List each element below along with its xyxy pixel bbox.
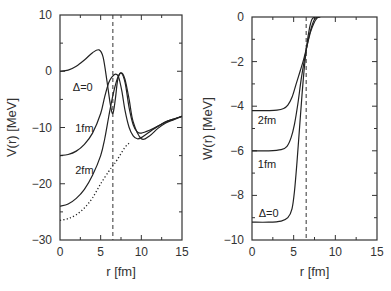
x-tick-label: 5 bbox=[290, 245, 297, 259]
curve-annotation: Δ=0 bbox=[73, 81, 93, 93]
curve-annotation: 2fm bbox=[75, 164, 93, 176]
y-tick-label: −10 bbox=[224, 233, 245, 247]
y-axis-label: V(r) [MeV] bbox=[4, 98, 19, 157]
y-tick-label: −10 bbox=[32, 121, 53, 135]
y-tick-label: −30 bbox=[32, 233, 53, 247]
x-axis-label: r [fm] bbox=[106, 264, 136, 279]
x-tick-label: 5 bbox=[97, 245, 104, 259]
y-tick-label: 10 bbox=[39, 8, 53, 22]
y-axis-label: W(r) [MeV] bbox=[200, 97, 215, 160]
panel-v-potential: 051015100−10−20−30r [fm]V(r) [MeV]Δ=01fm… bbox=[4, 8, 189, 279]
y-tick-label: −2 bbox=[230, 55, 244, 69]
curve-annotation: Δ=0 bbox=[259, 207, 279, 219]
y-tick-label: −20 bbox=[32, 177, 53, 191]
x-axis-label: r [fm] bbox=[300, 264, 330, 279]
y-tick-label: −6 bbox=[230, 144, 244, 158]
curve-annotation: 1fm bbox=[75, 122, 93, 134]
y-tick-label: 0 bbox=[237, 10, 244, 24]
curve-annotation: 1fm bbox=[258, 158, 276, 170]
y-tick-label: −8 bbox=[230, 188, 244, 202]
y-tick-label: 0 bbox=[45, 64, 52, 78]
curve-annotation: 2fm bbox=[258, 114, 276, 126]
x-tick-label: 15 bbox=[175, 245, 189, 259]
panel-w-potential: 0510150−2−4−6−8−10r [fm]W(r) [MeV]2fm1fm… bbox=[200, 10, 384, 279]
y-tick-label: −4 bbox=[230, 99, 244, 113]
x-tick-label: 0 bbox=[57, 245, 64, 259]
x-tick-label: 0 bbox=[249, 245, 256, 259]
x-tick-label: 10 bbox=[135, 245, 149, 259]
x-tick-label: 15 bbox=[370, 245, 384, 259]
chart-figure: 051015100−10−20−30r [fm]V(r) [MeV]Δ=01fm… bbox=[0, 0, 391, 291]
x-tick-label: 10 bbox=[329, 245, 343, 259]
series-line-bare bbox=[60, 143, 129, 220]
